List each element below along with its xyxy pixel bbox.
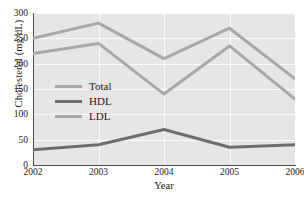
y-tick-150: 150 xyxy=(0,85,28,95)
legend-label-total: Total xyxy=(89,81,111,92)
legend-swatch-hdl-icon xyxy=(55,100,82,103)
x-tick-2005: 2005 xyxy=(210,168,250,178)
x-tick-2003: 2003 xyxy=(79,168,119,178)
y-tick-200: 200 xyxy=(0,60,28,70)
y-tick-250: 250 xyxy=(0,34,28,44)
legend-item-hdl: HDL xyxy=(55,94,112,109)
x-tick-2006: 2006 xyxy=(275,168,304,178)
x-axis-title: Year xyxy=(33,180,295,191)
legend-swatch-ldl-icon xyxy=(55,115,82,118)
legend-item-ldl: LDL xyxy=(55,109,112,124)
series-line-total xyxy=(33,23,295,79)
x-tick-2004: 2004 xyxy=(144,168,184,178)
y-tick-300: 300 xyxy=(0,9,28,19)
cholesterol-line-chart: Cholesterol (mg/dL) 300 250 200 150 100 … xyxy=(0,0,304,199)
x-tick-2002: 2002 xyxy=(13,168,53,178)
y-tick-50: 50 xyxy=(0,136,28,146)
legend-label-hdl: HDL xyxy=(89,96,112,107)
legend-item-total: Total xyxy=(55,79,112,94)
legend: Total HDL LDL xyxy=(55,79,112,124)
x-axis-line xyxy=(33,165,296,166)
series-line-hdl xyxy=(33,130,295,150)
y-tick-100: 100 xyxy=(0,110,28,120)
legend-label-ldl: LDL xyxy=(89,111,110,122)
legend-swatch-total-icon xyxy=(55,85,82,88)
